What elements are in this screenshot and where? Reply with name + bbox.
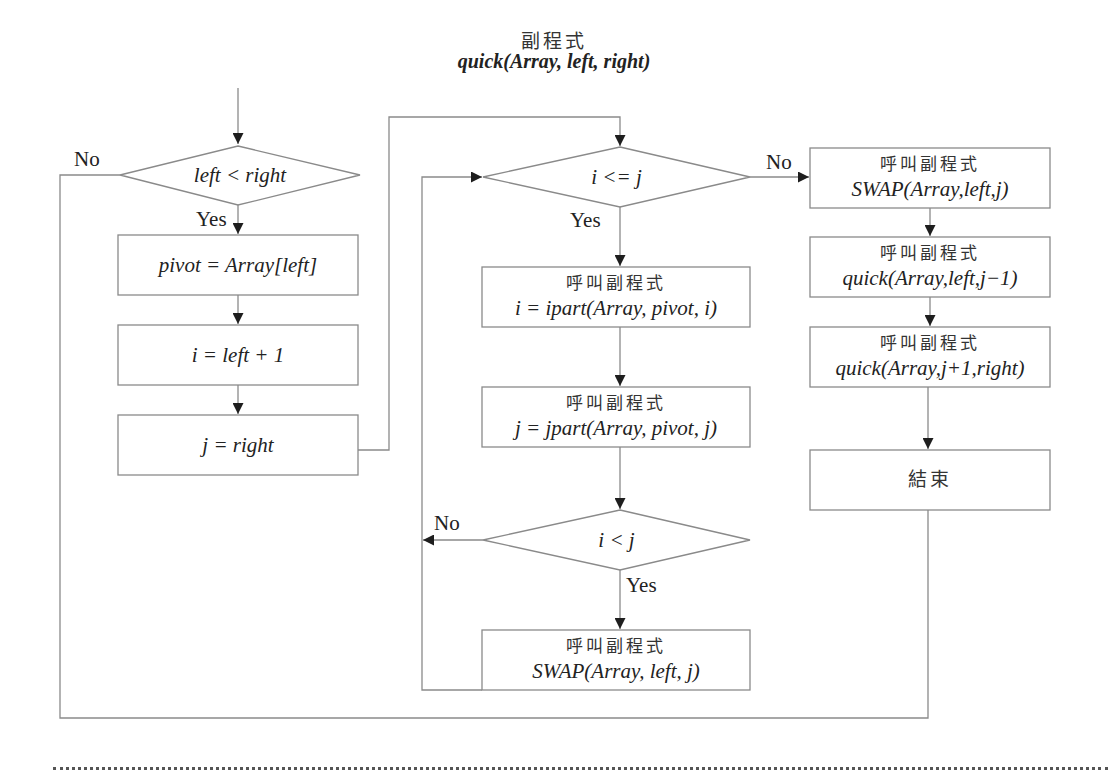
process-text: quick(Array,j+1,right) [835, 355, 1024, 381]
label-cond1-no: No [74, 147, 100, 172]
process-text: i = ipart(Array, pivot, i) [515, 295, 717, 321]
terminal-text: 結束 [908, 468, 952, 492]
process-call-quick-right: 呼叫副程式 quick(Array,j+1,right) [810, 327, 1050, 387]
process-caption: 呼叫副程式 [880, 154, 980, 175]
label-cond2-yes: Yes [570, 208, 601, 233]
process-text: SWAP(Array, left, j) [532, 658, 700, 684]
decision-text: i <= j [591, 164, 642, 190]
process-caption: 呼叫副程式 [566, 636, 666, 657]
process-text: SWAP(Array,left,j) [851, 176, 1008, 202]
process-text: quick(Array,left,j−1) [842, 265, 1017, 291]
process-text: j = jpart(Array, pivot, j) [515, 415, 717, 441]
edge-loop-back [422, 177, 482, 690]
label-cond2-no: No [766, 150, 792, 175]
decision-i-lt-j: i < j [483, 510, 750, 570]
decision-text: i < j [598, 527, 634, 553]
process-caption: 呼叫副程式 [880, 333, 980, 354]
decision-text: left < right [194, 162, 286, 188]
process-call-quick-left: 呼叫副程式 quick(Array,left,j−1) [810, 237, 1050, 297]
label-cond3-yes: Yes [626, 573, 657, 598]
process-pivot: pivot = Array[left] [118, 235, 358, 295]
terminal-end: 結束 [810, 450, 1050, 510]
decision-i-le-j: i <= j [483, 147, 750, 207]
process-caption: 呼叫副程式 [880, 243, 980, 264]
process-text: pivot = Array[left] [159, 252, 317, 278]
label-cond3-no: No [434, 511, 460, 536]
process-call-swap-loop: 呼叫副程式 SWAP(Array, left, j) [482, 630, 750, 690]
process-call-swap-end: 呼叫副程式 SWAP(Array,left,j) [810, 148, 1050, 208]
decision-left-right: left < right [120, 146, 360, 205]
process-assign-j: j = right [118, 415, 358, 475]
process-text: j = right [202, 432, 273, 458]
process-call-jpart: 呼叫副程式 j = jpart(Array, pivot, j) [482, 387, 750, 447]
process-caption: 呼叫副程式 [566, 273, 666, 294]
process-caption: 呼叫副程式 [566, 393, 666, 414]
process-text: i = left + 1 [192, 342, 285, 368]
process-assign-i: i = left + 1 [118, 325, 358, 385]
label-cond1-yes: Yes [196, 207, 227, 232]
process-call-ipart: 呼叫副程式 i = ipart(Array, pivot, i) [482, 267, 750, 327]
